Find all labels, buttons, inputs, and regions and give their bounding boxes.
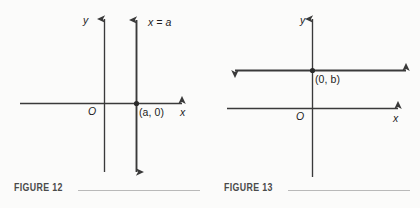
figure-12: y x O x = a (a, 0) FIGURE 12 [0, 0, 210, 208]
x-axis-label: x [180, 106, 185, 118]
figure-12-graph [0, 0, 210, 208]
y-axis-label: y [83, 14, 88, 26]
figure-13-graph [210, 0, 420, 208]
caption-rule [288, 190, 410, 191]
figure-caption: FIGURE 12 [14, 182, 63, 193]
intercept-point-label: (0, b) [315, 73, 340, 85]
graph-equation-label: x = a [148, 16, 172, 28]
figure-13: y x O (0, b) FIGURE 13 [210, 0, 420, 208]
intercept-point-label: (a, 0) [139, 106, 164, 118]
y-axis-label: y [300, 14, 305, 26]
figure-13-caption-row: FIGURE 13 [224, 180, 410, 194]
figure-page: y x O x = a (a, 0) FIGURE 12 [0, 0, 420, 208]
x-axis-label: x [393, 112, 398, 124]
origin-label: O [88, 105, 96, 117]
origin-label: O [296, 110, 304, 122]
figure-caption: FIGURE 13 [224, 182, 273, 193]
figure-12-caption-row: FIGURE 12 [14, 180, 200, 194]
caption-rule [78, 190, 200, 191]
